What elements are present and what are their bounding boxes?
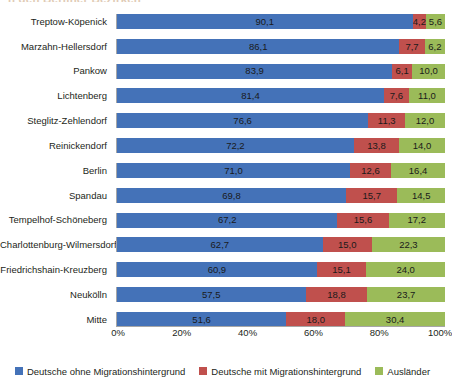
bar-value-label: 22,3 [399, 240, 418, 250]
stacked-bar: 86,17,76,2 [116, 39, 445, 54]
stacked-bar: 72,213,814,0 [116, 138, 445, 153]
x-axis-ticks: 0%20%40%60%80%100% [116, 327, 445, 340]
bar-segment: 6,2 [425, 39, 445, 54]
category-label: Spandau [0, 191, 116, 201]
bar-value-label: 15,1 [332, 265, 351, 275]
bar-segment: 62,7 [117, 237, 323, 252]
category-label: Mitte [0, 315, 116, 325]
category-label: Berlin [0, 166, 116, 176]
chart-row: Tempelhof-Schöneberg67,215,617,2 [0, 213, 445, 228]
bar-value-label: 76,6 [233, 116, 252, 126]
bar-segment: 90,1 [117, 14, 413, 29]
bar-segment: 18,8 [306, 287, 368, 302]
bar-segment: 6,1 [392, 64, 412, 79]
bar-segment: 13,8 [354, 138, 399, 153]
bar-value-label: 24,0 [396, 265, 415, 275]
stacked-bar: 76,611,312,0 [116, 113, 445, 128]
bar-segment: 11,3 [368, 113, 405, 128]
legend-item[interactable]: Deutsche mit Migrationshintergrund [199, 366, 361, 377]
bar-segment: 83,9 [117, 64, 392, 79]
plot-area: Treptow-Köpenick90,14,25,6Marzahn-Heller… [0, 14, 445, 340]
category-label: Neukölln [0, 290, 116, 300]
bar-value-label: 6,1 [396, 66, 409, 76]
category-label: Steglitz-Zehlendorf [0, 116, 116, 126]
bar-segment: 81,4 [117, 88, 384, 103]
bar-segment: 14,0 [399, 138, 445, 153]
bar-segment: 7,7 [399, 39, 424, 54]
chart-row: Charlottenburg-Wilmersdorf62,715,022,3 [0, 237, 445, 252]
chart-row: Pankow83,96,110,0 [0, 64, 445, 79]
stacked-bar: 71,012,616,4 [116, 163, 445, 178]
bar-value-label: 12,0 [416, 116, 435, 126]
bar-value-label: 67,2 [218, 215, 237, 225]
stacked-bar: 83,96,110,0 [116, 64, 445, 79]
bar-value-label: 17,2 [408, 215, 427, 225]
stacked-bar: 60,915,124,0 [116, 262, 445, 277]
bar-segment: 7,6 [384, 88, 409, 103]
bar-value-label: 60,9 [208, 265, 227, 275]
legend-label: Ausländer [387, 366, 430, 377]
bar-value-label: 23,7 [397, 290, 416, 300]
bar-segment: 18,0 [286, 312, 345, 327]
category-label: Friedrichshain-Kreuzberg [0, 265, 116, 275]
x-tick-label: 100% [428, 328, 452, 338]
bar-segment: 16,4 [391, 163, 445, 178]
bar-segment: 12,0 [405, 113, 444, 128]
legend-item[interactable]: Ausländer [375, 366, 430, 377]
bar-segment: 30,4 [345, 312, 445, 327]
bar-value-label: 71,0 [224, 166, 243, 176]
bar-segment: 15,0 [323, 237, 372, 252]
chart-row: Treptow-Köpenick90,14,25,6 [0, 14, 445, 29]
chart-row: Spandau69,815,714,5 [0, 188, 445, 203]
category-label: Reinickendorf [0, 141, 116, 151]
chart-row: Steglitz-Zehlendorf76,611,312,0 [0, 113, 445, 128]
x-tick-label: 20% [172, 328, 191, 338]
bar-value-label: 12,6 [361, 166, 380, 176]
category-label: Tempelhof-Schöneberg [0, 215, 116, 225]
bar-value-label: 15,6 [354, 215, 373, 225]
x-tick-label: 0% [111, 328, 125, 338]
bar-value-label: 30,4 [386, 315, 405, 325]
bar-segment: 86,1 [117, 39, 399, 54]
bar-value-label: 51,6 [192, 315, 211, 325]
bar-rows: Treptow-Köpenick90,14,25,6Marzahn-Heller… [0, 14, 445, 327]
chart-legend: Deutsche ohne MigrationshintergrundDeuts… [0, 363, 445, 379]
chart-row: Neukölln57,518,823,7 [0, 287, 445, 302]
legend-swatch-icon [15, 367, 23, 375]
chart-title-cutoff: n den Berliner Bezirken [8, 0, 141, 2]
bar-value-label: 16,4 [409, 166, 428, 176]
category-label: Charlottenburg-Wilmersdorf [0, 240, 116, 250]
bar-value-label: 83,9 [245, 66, 264, 76]
bar-value-label: 18,0 [307, 315, 326, 325]
stacked-bar: 81,47,611,0 [116, 88, 445, 103]
bar-value-label: 5,6 [429, 17, 442, 27]
bar-segment: 12,6 [350, 163, 391, 178]
bar-value-label: 86,1 [249, 42, 268, 52]
category-label: Pankow [0, 66, 116, 76]
bar-value-label: 11,0 [418, 91, 436, 101]
bar-segment: 76,6 [117, 113, 368, 128]
bar-segment: 67,2 [117, 213, 337, 228]
bar-value-label: 15,7 [362, 191, 381, 201]
bar-segment: 60,9 [117, 262, 317, 277]
x-tick-label: 40% [238, 328, 257, 338]
chart-row: Friedrichshain-Kreuzberg60,915,124,0 [0, 262, 445, 277]
bar-segment: 72,2 [117, 138, 354, 153]
bar-value-label: 72,2 [226, 141, 245, 151]
stacked-bar: 57,518,823,7 [116, 287, 445, 302]
legend-swatch-icon [199, 367, 207, 375]
bar-value-label: 15,0 [338, 240, 357, 250]
legend-item[interactable]: Deutsche ohne Migrationshintergrund [15, 366, 185, 377]
legend-swatch-icon [375, 367, 383, 375]
bar-value-label: 7,7 [405, 42, 418, 52]
chart-row: Berlin71,012,616,4 [0, 163, 445, 178]
chart-row: Mitte51,618,030,4 [0, 312, 445, 327]
bar-value-label: 90,1 [256, 17, 275, 27]
bar-value-label: 7,6 [390, 91, 403, 101]
bar-segment: 24,0 [366, 262, 445, 277]
bar-segment: 69,8 [117, 188, 346, 203]
category-label: Lichtenberg [0, 91, 116, 101]
category-label: Marzahn-Hellersdorf [0, 42, 116, 52]
bar-segment: 11,0 [409, 88, 445, 103]
chart-row: Marzahn-Hellersdorf86,17,76,2 [0, 39, 445, 54]
